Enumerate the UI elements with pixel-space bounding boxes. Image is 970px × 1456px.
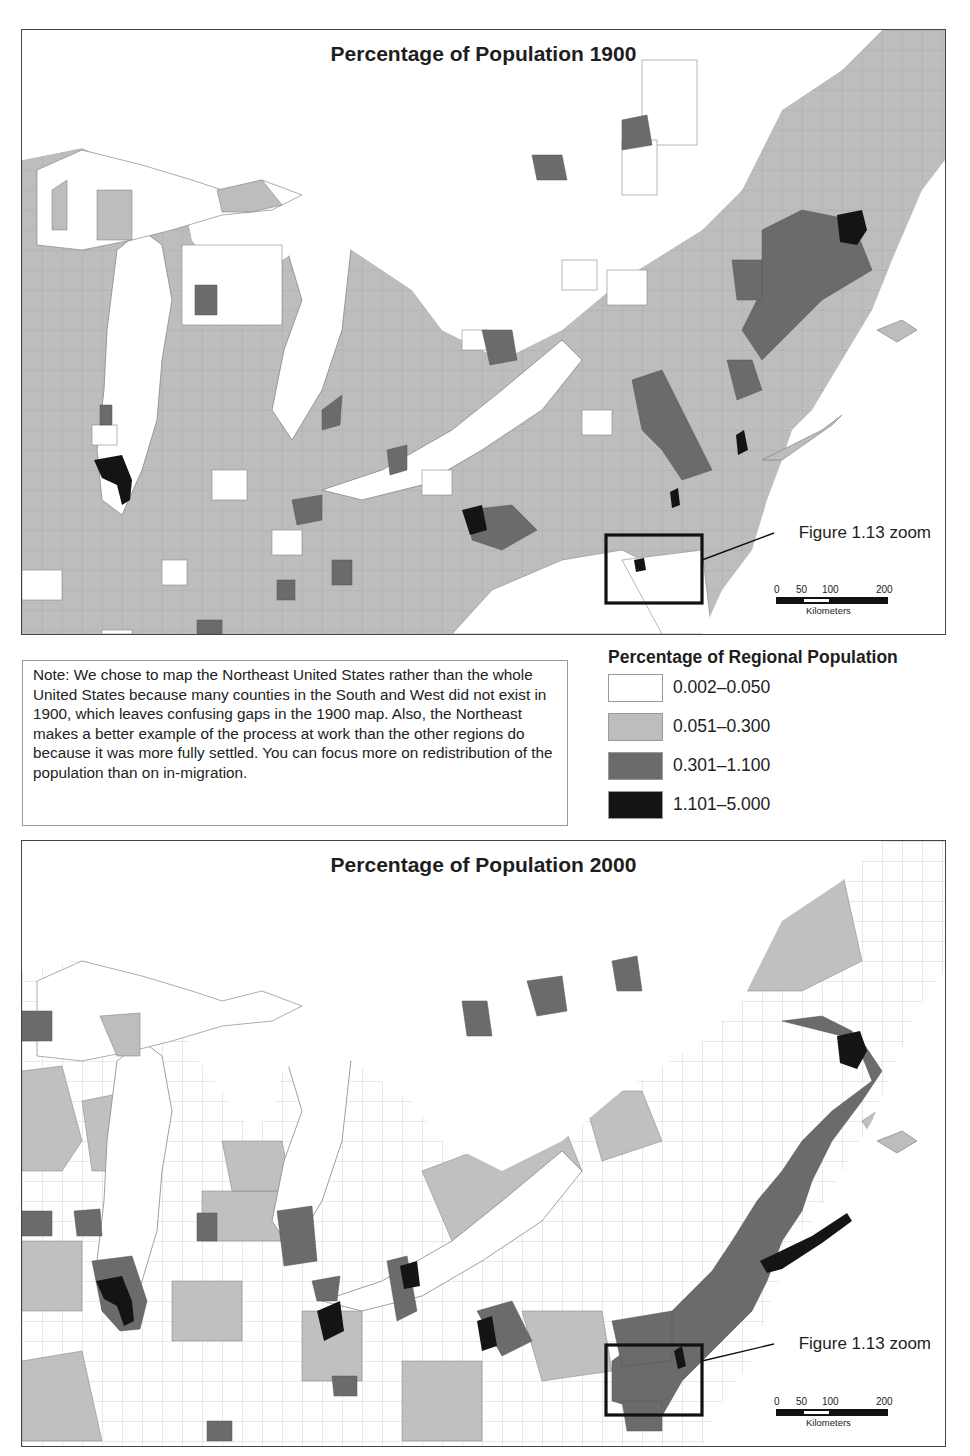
- map-2000: Percentage of Population 2000 Figure 1.1…: [21, 840, 946, 1447]
- zoom-box-label-1900: Figure 1.13 zoom: [799, 523, 931, 543]
- legend-swatch-class-1: [608, 674, 663, 702]
- legend-item: 0.002–0.050: [606, 668, 966, 707]
- scale-unit-label: Kilometers: [806, 605, 912, 616]
- legend-item: 0.301–1.100: [606, 746, 966, 785]
- scale-bar-graphic: [776, 1409, 888, 1416]
- scale-tick-50: 50: [796, 1396, 807, 1407]
- scale-tick-0: 0: [774, 1396, 780, 1407]
- legend-label: 0.051–0.300: [673, 716, 770, 737]
- scale-tick-200: 200: [876, 1396, 893, 1407]
- legend: Percentage of Regional Population 0.002–…: [606, 647, 966, 824]
- scale-bar-1900: 0 50 100 200 Kilometers: [772, 584, 912, 616]
- legend-label: 0.301–1.100: [673, 755, 770, 776]
- legend-swatch-class-2: [608, 713, 663, 741]
- legend-item: 1.101–5.000: [606, 785, 966, 824]
- scale-tick-200: 200: [876, 584, 893, 595]
- legend-label: 0.002–0.050: [673, 677, 770, 698]
- scale-unit-label: Kilometers: [806, 1417, 912, 1428]
- scale-tick-50: 50: [796, 584, 807, 595]
- scale-tick-0: 0: [774, 584, 780, 595]
- legend-title: Percentage of Regional Population: [608, 647, 966, 668]
- legend-item: 0.051–0.300: [606, 707, 966, 746]
- map-1900-canvas: [22, 30, 945, 634]
- map-title-2000: Percentage of Population 2000: [22, 853, 945, 877]
- scale-tick-100: 100: [822, 584, 839, 595]
- county-baltimore-1900: [634, 558, 646, 572]
- map-1900: Percentage of Population 1900 Figure 1.1…: [21, 29, 946, 635]
- note-box: Note: We chose to map the Northeast Unit…: [22, 660, 568, 826]
- scale-bar-2000: 0 50 100 200 Kilometers: [772, 1396, 912, 1428]
- note-text: Note: We chose to map the Northeast Unit…: [33, 666, 553, 781]
- scale-bar-graphic: [776, 597, 888, 604]
- legend-label: 1.101–5.000: [673, 794, 770, 815]
- map-title-1900: Percentage of Population 1900: [22, 42, 945, 66]
- legend-swatch-class-4: [608, 791, 663, 819]
- zoom-box-label-2000: Figure 1.13 zoom: [799, 1334, 931, 1354]
- legend-swatch-class-3: [608, 752, 663, 780]
- scale-tick-100: 100: [822, 1396, 839, 1407]
- map-2000-canvas: [22, 841, 945, 1446]
